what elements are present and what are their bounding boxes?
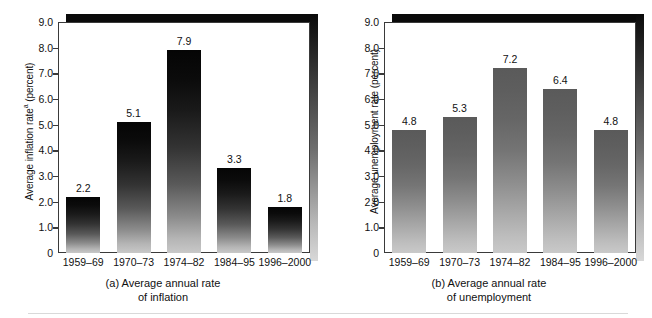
y-tick-label: 8.0 [353,42,379,53]
bar [493,68,527,253]
bar-value-label: 3.3 [204,153,264,165]
bar [167,50,201,253]
x-tick-labels-inflation: 1959–691970–731974–821984–951996–2000 [46,256,322,272]
bar [66,197,100,253]
bar-value-label: 5.3 [430,102,490,114]
chart-panel-unemployment: Average unemployment rate (percent) 01.0… [326,0,652,318]
figure-container: Average inflation ratea (percent) 01.02.… [0,0,652,318]
y-axis-tick-mark [379,125,384,126]
bottom-divider-rule [28,313,628,314]
y-axis-tick-mark [53,48,58,49]
y-axis-tick-mark [379,73,384,74]
plot-frame-right-shadow [310,14,318,261]
y-axis-tick-mark [53,73,58,74]
y-axis-tick-mark [53,176,58,177]
bars-layer-unemployment: 4.85.37.26.44.8 [384,22,636,253]
bar [217,168,251,253]
y-tick-label: 6.0 [27,94,53,105]
panel-caption-unemployment: (b) Average annual rate of unemployment [326,276,652,304]
chart-panel-inflation: Average inflation ratea (percent) 01.02.… [0,0,326,318]
y-tick-label: 2.0 [353,196,379,207]
x-tick-label: 1996–2000 [253,256,317,268]
bar-value-label: 7.9 [154,35,214,47]
panel-caption-line-2: of unemployment [326,290,652,304]
panel-caption-inflation: (a) Average annual rate of inflation [0,276,326,304]
plot-frame-top-shadow [66,14,318,22]
bar-value-label: 6.4 [530,74,590,86]
y-tick-label: 4.0 [27,145,53,156]
y-tick-label: 5.0 [353,119,379,130]
y-tick-label: 1.0 [353,222,379,233]
y-tick-label: 9.0 [353,17,379,28]
y-tick-labels-unemployment: 01.02.03.04.05.06.07.08.09.0 [353,16,379,258]
y-axis-tick-mark [379,48,384,49]
plot-frame-top-shadow [392,14,644,22]
bar [268,207,302,253]
bar [117,122,151,253]
y-tick-label: 7.0 [353,68,379,79]
y-tick-label: 5.0 [27,119,53,130]
bar-value-label: 1.8 [255,192,315,204]
bar-value-label: 4.8 [581,115,641,127]
y-tick-label: 4.0 [353,145,379,156]
y-tick-label: 2.0 [27,196,53,207]
bar [392,130,426,253]
x-tick-label: 1996–2000 [579,256,643,268]
bar [594,130,628,253]
y-tick-label: 3.0 [353,171,379,182]
y-tick-labels-inflation: 01.02.03.04.05.06.07.08.09.0 [27,16,53,258]
y-axis-tick-mark [379,99,384,100]
y-tick-label: 6.0 [353,94,379,105]
bar-value-label: 4.8 [379,115,439,127]
panel-caption-line-1: (b) Average annual rate [326,276,652,290]
y-axis-tick-mark [379,227,384,228]
bar-value-label: 2.2 [53,182,113,194]
y-axis-tick-mark [379,150,384,151]
y-axis-tick-mark [379,176,384,177]
y-tick-label: 1.0 [27,222,53,233]
plot-frame-right-shadow [636,14,644,261]
bar-value-label: 7.2 [480,53,540,65]
y-tick-label: 8.0 [27,42,53,53]
y-tick-label: 7.0 [27,68,53,79]
x-tick-labels-unemployment: 1959–691970–731974–821984–951996–2000 [372,256,648,272]
y-tick-label: 9.0 [27,17,53,28]
bar-value-label: 5.1 [104,107,164,119]
y-axis-tick-mark [53,150,58,151]
y-axis-tick-mark [53,125,58,126]
bar [443,117,477,253]
bar [543,89,577,253]
bars-layer-inflation: 2.25.17.93.31.8 [58,22,310,253]
panel-caption-line-2: of inflation [0,290,326,304]
y-axis-tick-mark [379,202,384,203]
y-axis-tick-mark [53,202,58,203]
y-axis-tick-mark [53,227,58,228]
panel-caption-line-1: (a) Average annual rate [0,276,326,290]
y-tick-label: 3.0 [27,171,53,182]
y-axis-tick-mark [53,99,58,100]
